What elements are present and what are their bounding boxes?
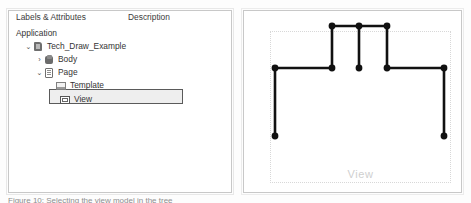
tree-item-view[interactable]: View xyxy=(60,93,92,106)
tree-column-headers: Labels & Attributes Description xyxy=(9,11,231,27)
tree-item-label: View xyxy=(74,93,92,106)
view-icon xyxy=(60,95,71,105)
chevron-right-icon[interactable]: › xyxy=(35,53,44,66)
figure-caption: Figure 10: Selecting the view model in t… xyxy=(8,196,248,203)
vertex-marker[interactable] xyxy=(384,23,391,30)
vertex-marker[interactable] xyxy=(441,65,448,72)
column-header-labels: Labels & Attributes xyxy=(16,12,86,22)
tree-item-tech-draw-example[interactable]: ⌄ Tech_Draw_Example xyxy=(24,40,126,53)
tree-item-label: Page xyxy=(58,66,78,79)
vertex-marker[interactable] xyxy=(356,65,363,72)
vertex-marker[interactable] xyxy=(441,133,448,140)
chevron-down-icon[interactable]: ⌄ xyxy=(24,40,33,53)
drawing-preview-panel[interactable]: View xyxy=(243,10,462,193)
tree-body: Application ⌄ Tech_Draw_Example › Body ⌄… xyxy=(9,27,231,192)
tree-item-body[interactable]: › Body xyxy=(35,53,77,66)
chevron-down-icon[interactable]: ⌄ xyxy=(35,66,44,79)
screenshot-root: Labels & Attributes Description Applicat… xyxy=(0,0,471,203)
tree-item-label: Application xyxy=(16,27,57,40)
vertex-marker[interactable] xyxy=(356,23,363,30)
column-header-description: Description xyxy=(128,12,170,22)
tree-item-label: Template xyxy=(70,79,104,92)
body-icon xyxy=(44,55,55,65)
technical-drawing xyxy=(244,11,463,194)
vertex-marker[interactable] xyxy=(384,65,391,72)
vertex-marker[interactable] xyxy=(272,133,279,140)
model-tree-panel: Labels & Attributes Description Applicat… xyxy=(8,10,232,193)
tree-item-label: Tech_Draw_Example xyxy=(47,40,126,53)
vertex-marker[interactable] xyxy=(329,23,336,30)
vertex-marker[interactable] xyxy=(329,65,336,72)
tree-item-application[interactable]: Application xyxy=(16,27,57,40)
tree-item-page[interactable]: ⌄ Page xyxy=(35,66,78,79)
page-icon xyxy=(44,68,55,78)
vertex-marker[interactable] xyxy=(272,65,279,72)
template-icon xyxy=(56,81,67,91)
tree-item-template[interactable]: Template xyxy=(56,79,104,92)
document-3d-icon xyxy=(33,42,44,52)
tree-item-label: Body xyxy=(58,53,77,66)
